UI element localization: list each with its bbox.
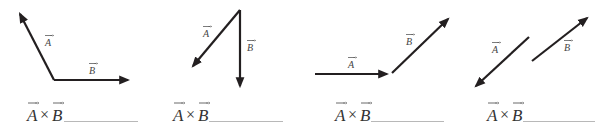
vector-a	[476, 37, 529, 86]
svg-text:A: A	[44, 37, 52, 48]
vector-a	[193, 10, 240, 66]
vector-b	[392, 19, 448, 73]
vector-a-label: A	[491, 43, 499, 56]
vector-a-label: A	[202, 27, 210, 40]
svg-text:B: B	[89, 65, 95, 76]
svg-text:A: A	[486, 106, 498, 125]
svg-text:A: A	[26, 106, 38, 125]
vector-b-label: B	[89, 64, 96, 77]
svg-text:B: B	[198, 106, 209, 125]
svg-text:B: B	[406, 36, 412, 47]
cross-product-caption: A × B	[334, 103, 371, 125]
vector-cross-product-diagram: A B A × B A B A × B	[0, 0, 602, 129]
svg-text:B: B	[564, 42, 570, 53]
svg-text:A: A	[334, 106, 346, 125]
vector-b-label: B	[247, 41, 254, 54]
svg-text:B: B	[247, 42, 253, 53]
vector-b	[532, 18, 587, 61]
svg-text:A: A	[347, 59, 355, 70]
panel-4: A B A × B	[476, 18, 595, 125]
svg-text:B: B	[360, 106, 371, 125]
cross-product-caption: A × B	[26, 103, 63, 125]
svg-text:A: A	[491, 44, 499, 55]
vector-a-label: A	[347, 58, 355, 71]
panel-1: A B A × B	[20, 14, 138, 125]
cross-product-caption: A × B	[486, 103, 523, 125]
svg-text:A: A	[172, 106, 184, 125]
svg-text:×: ×	[348, 106, 357, 123]
vector-a-label: A	[44, 36, 52, 49]
svg-text:A: A	[202, 28, 210, 39]
svg-text:B: B	[52, 106, 63, 125]
svg-text:B: B	[512, 106, 523, 125]
vector-b-label: B	[564, 41, 571, 54]
vector-b-label: B	[406, 35, 413, 48]
svg-text:×: ×	[186, 106, 195, 123]
panel-3: A B A × B	[315, 19, 448, 125]
panel-2: A B A × B	[172, 10, 283, 125]
svg-text:×: ×	[40, 106, 49, 123]
cross-product-caption: A × B	[172, 103, 209, 125]
svg-text:×: ×	[500, 106, 509, 123]
